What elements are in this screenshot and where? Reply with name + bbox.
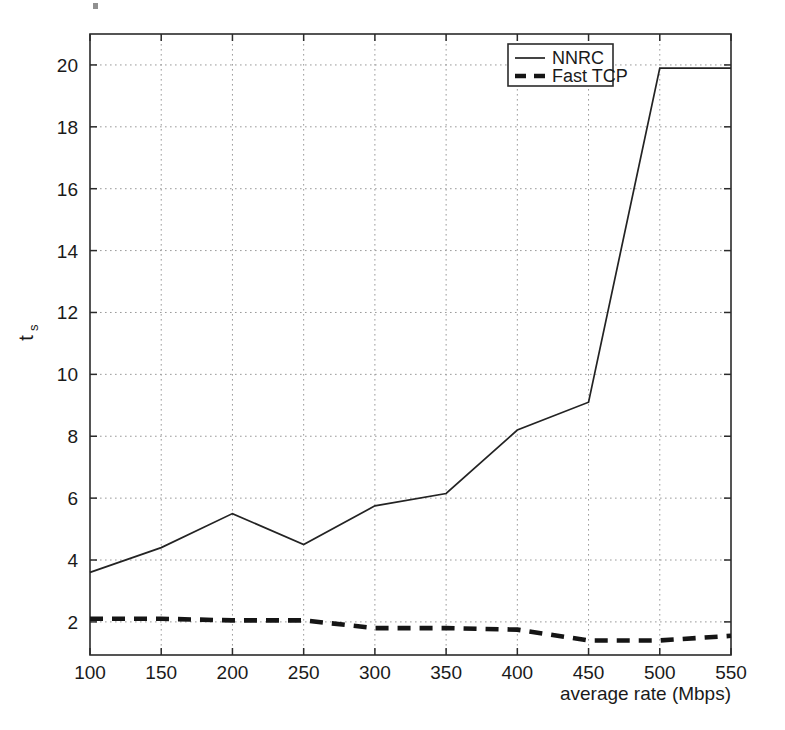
series-layer: [90, 68, 731, 640]
y-tick-label: 20: [57, 55, 78, 76]
y-tick-label: 10: [57, 364, 78, 385]
x-tick-label: 250: [288, 662, 320, 683]
x-tick-labels: 100150200250300350400450500550: [74, 662, 747, 683]
y-tick-label: 14: [57, 241, 79, 262]
legend-label-nnrc: NNRC: [552, 48, 604, 68]
y-tick-label: 2: [67, 612, 78, 633]
y-tick-label: 4: [67, 550, 78, 571]
line-chart: 100150200250300350400450500550 246810121…: [0, 0, 785, 730]
y-axis-title-main: t: [15, 335, 37, 341]
y-tick-labels: 2468101214161820: [57, 55, 79, 633]
y-tick-label: 18: [57, 117, 78, 138]
x-tick-label: 200: [217, 662, 249, 683]
x-tick-label: 100: [74, 662, 106, 683]
figure-container: 100150200250300350400450500550 246810121…: [0, 0, 785, 730]
y-tick-label: 12: [57, 302, 78, 323]
legend[interactable]: NNRC Fast TCP: [508, 44, 628, 86]
y-axis-title: t s: [15, 324, 41, 341]
y-axis-title-subscript: s: [26, 324, 41, 331]
x-tick-label: 500: [644, 662, 676, 683]
legend-label-fast-tcp: Fast TCP: [552, 66, 628, 86]
x-axis-title: average rate (Mbps): [560, 683, 731, 704]
x-tick-label: 550: [715, 662, 747, 683]
y-tick-label: 16: [57, 179, 78, 200]
scan-artifact-speck: [93, 3, 98, 9]
x-tick-label: 300: [359, 662, 391, 683]
x-tick-label: 150: [145, 662, 177, 683]
x-tick-label: 400: [501, 662, 533, 683]
y-tick-label: 8: [67, 426, 78, 447]
x-tick-label: 350: [430, 662, 462, 683]
grid-layer: [90, 34, 731, 655]
x-tick-label: 450: [573, 662, 605, 683]
series-line-nnrc: [90, 68, 731, 572]
y-tick-label: 6: [67, 488, 78, 509]
